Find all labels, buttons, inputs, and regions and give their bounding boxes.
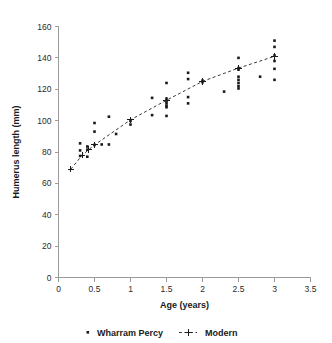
modern-plus-marker xyxy=(68,166,74,172)
x-axis-title: Age (years) xyxy=(160,300,209,310)
modern-plus-markers xyxy=(68,53,278,172)
wharram-percy-point xyxy=(86,145,89,148)
wharram-percy-point xyxy=(187,102,190,105)
wharram-percy-point xyxy=(237,57,240,60)
x-axis-ticks: 00.511.522.533.5 xyxy=(56,278,317,294)
modern-trend-line xyxy=(71,56,275,169)
plot-axes xyxy=(59,27,311,278)
x-tick-label: 0 xyxy=(56,284,61,294)
x-tick-label: 3 xyxy=(272,284,277,294)
wharram-percy-point xyxy=(259,75,262,78)
y-tick-label: 120 xyxy=(37,84,51,94)
wharram-percy-point xyxy=(187,78,190,81)
x-tick-label: 1.5 xyxy=(161,284,173,294)
y-tick-label: 0 xyxy=(47,273,52,283)
modern-plus-marker xyxy=(199,78,205,84)
wharram-percy-point xyxy=(273,79,276,82)
legend-item-wharram-percy[interactable]: Wharram Percy xyxy=(87,328,164,338)
wharram-percy-point xyxy=(273,68,276,71)
wharram-percy-point xyxy=(273,39,276,42)
wharram-percy-point xyxy=(86,155,89,158)
y-tick-label: 140 xyxy=(37,53,51,63)
legend-item-modern[interactable]: Modern xyxy=(179,328,238,338)
wharram-percy-point xyxy=(165,82,168,85)
y-tick-label: 60 xyxy=(42,178,52,188)
y-tick-label: 80 xyxy=(42,147,52,157)
wharram-percy-point xyxy=(237,87,240,90)
wharram-percy-point xyxy=(237,79,240,82)
wharram-percy-point xyxy=(273,46,276,49)
wharram-percy-point xyxy=(93,122,96,125)
wharram-percy-point xyxy=(165,115,168,118)
x-tick-label: 2.5 xyxy=(233,284,245,294)
legend-label-modern: Modern xyxy=(205,328,238,338)
x-tick-label: 0.5 xyxy=(89,284,101,294)
legend-label-wharram-percy: Wharram Percy xyxy=(97,328,163,338)
wharram-percy-point xyxy=(100,143,103,146)
y-tick-label: 40 xyxy=(42,210,52,220)
wharram-percy-point xyxy=(223,90,226,93)
modern-plus-marker xyxy=(163,97,169,103)
modern-plus-marker xyxy=(235,65,241,71)
wharram-percy-point xyxy=(151,97,154,100)
wharram-percy-point xyxy=(237,85,240,88)
y-tick-label: 100 xyxy=(37,116,51,126)
chart-figure: 020406080100120140160 00.511.522.533.5 H… xyxy=(0,0,332,343)
wharram-percy-point xyxy=(79,142,82,145)
x-tick-label: 2 xyxy=(200,284,205,294)
humerus-length-scatter-chart: 020406080100120140160 00.511.522.533.5 H… xyxy=(0,0,332,343)
wharram-percy-point xyxy=(273,60,276,63)
modern-plus-marker xyxy=(127,117,133,123)
wharram-percy-point xyxy=(237,75,240,78)
x-tick-label: 3.5 xyxy=(305,284,317,294)
wharram-percy-point xyxy=(187,71,190,74)
x-tick-label: 1 xyxy=(128,284,133,294)
modern-trend-path xyxy=(71,56,275,169)
wharram-percy-point xyxy=(108,115,111,118)
y-tick-label: 160 xyxy=(37,22,51,32)
wharram-percy-point xyxy=(93,130,96,133)
chart-legend: Wharram PercyModern xyxy=(87,328,238,338)
y-axis-title: Humerus length (mm) xyxy=(11,105,21,198)
modern-plus-marker xyxy=(79,152,85,158)
wharram-percy-point xyxy=(237,82,240,85)
wharram-percy-point xyxy=(187,96,190,99)
wharram-percy-point xyxy=(129,123,132,126)
modern-plus-marker xyxy=(271,53,277,59)
wharram-percy-point xyxy=(79,149,82,152)
wharram-percy-point xyxy=(108,143,111,146)
wharram-percy-points xyxy=(79,39,276,158)
modern-plus-marker xyxy=(91,142,97,148)
legend-dot-icon xyxy=(87,331,90,334)
wharram-percy-point xyxy=(151,114,154,117)
y-axis-ticks: 020406080100120140160 xyxy=(37,22,58,283)
y-tick-label: 20 xyxy=(42,241,52,251)
wharram-percy-point xyxy=(165,106,168,109)
wharram-percy-point xyxy=(115,133,118,136)
